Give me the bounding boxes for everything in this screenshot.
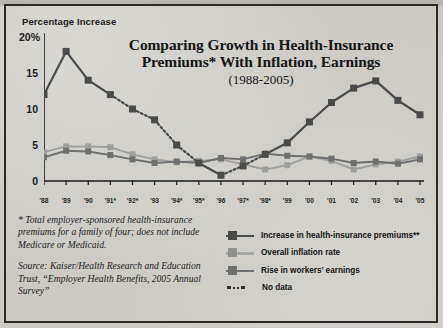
y-axis-title: Percentage Increase — [22, 16, 116, 27]
chart-page: Percentage Increase Comparing Growth in … — [0, 0, 443, 328]
legend-swatch-premiums — [226, 230, 254, 241]
legend-swatch-earnings — [226, 265, 254, 276]
legend-label-earnings: Rise in workers’ earnings — [261, 266, 360, 275]
legend-item-inflation[interactable]: Overall inflation rate — [226, 246, 430, 260]
legend-item-premiums[interactable]: Increase in health-insurance premiums** — [226, 228, 430, 242]
y-tick-label: 20% — [10, 31, 40, 43]
y-tick-label: 10 — [12, 103, 38, 115]
legend-item-no-data[interactable]: No data — [226, 281, 430, 295]
x-tick-label: '05 — [407, 197, 433, 204]
chart-svg — [44, 33, 426, 198]
y-tick-label: 15 — [12, 67, 38, 79]
y-tick-label: 5 — [12, 139, 38, 151]
chart-legend: Increase in health-insurance premiums** … — [226, 228, 430, 298]
chart-notes: * Total employer-sponsored health-insura… — [18, 214, 210, 306]
source-text: Source: Kaiser/Health Research and Educa… — [18, 260, 210, 297]
legend-label-no-data: No data — [262, 283, 292, 292]
legend-item-earnings[interactable]: Rise in workers’ earnings — [226, 263, 430, 277]
legend-swatch-inflation — [226, 247, 254, 258]
footnote-text: * Total employer-sponsored health-insura… — [18, 214, 210, 251]
legend-swatch-no-data — [226, 282, 255, 293]
legend-label-inflation: Overall inflation rate — [261, 248, 340, 257]
plot-area — [44, 33, 426, 193]
y-tick-label: 0 — [12, 175, 38, 187]
legend-label-premiums: Increase in health-insurance premiums** — [261, 231, 419, 240]
